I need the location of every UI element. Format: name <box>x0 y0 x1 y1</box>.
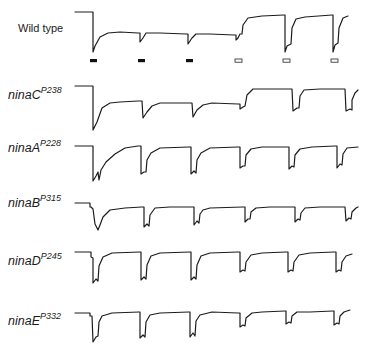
row-label-ninaA: ninaAP228 <box>8 141 61 155</box>
trace-ninaC <box>75 86 358 130</box>
trace-ninaE <box>75 310 350 342</box>
filled-stimulus-bar <box>138 59 145 62</box>
genotype-name: ninaA <box>8 141 40 155</box>
genotype-name: Wild type <box>18 22 63 34</box>
genotype-name: ninaC <box>8 88 41 102</box>
allele-superscript: P332 <box>40 311 61 321</box>
open-stimulus-bar <box>235 59 242 62</box>
genotype-name: ninaD <box>8 254 41 268</box>
trace-ninaD <box>75 252 352 283</box>
genotype-name: ninaE <box>8 314 40 328</box>
filled-stimulus-bar <box>186 59 193 62</box>
genotype-name: ninaB <box>8 196 40 210</box>
filled-stimulus-bar <box>90 59 97 62</box>
stimulus-marker-group <box>90 59 338 62</box>
trace-ninaA <box>75 146 358 181</box>
allele-superscript: P245 <box>41 251 62 261</box>
row-label-ninaC: ninaCP238 <box>8 88 62 102</box>
erg-traces-figure <box>0 0 369 352</box>
allele-superscript: P228 <box>40 138 61 148</box>
allele-superscript: P238 <box>41 85 62 95</box>
trace-group <box>75 12 358 342</box>
trace-ninaB <box>75 203 358 230</box>
row-label-ninaE: ninaEP332 <box>8 314 61 328</box>
open-stimulus-bar <box>331 59 338 62</box>
open-stimulus-bar <box>283 59 290 62</box>
row-label-ninaB: ninaBP315 <box>8 196 61 210</box>
row-label-ninaD: ninaDP245 <box>8 254 62 268</box>
trace-wild-type <box>75 12 348 52</box>
row-label-wild-type: Wild type <box>18 22 63 34</box>
allele-superscript: P315 <box>40 193 61 203</box>
